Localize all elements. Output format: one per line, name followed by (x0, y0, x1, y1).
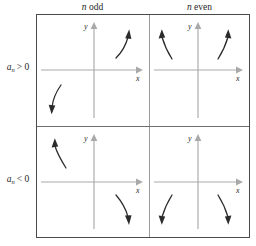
x-axis-label: x (235, 186, 240, 195)
x-axis-label: x (235, 74, 240, 83)
arrow-curve-quadrant-iv (218, 195, 228, 217)
arrow-curve-quadrant-ii (162, 37, 172, 59)
cell-odd-negative: x y (37, 127, 149, 237)
y-axis-arrowhead (91, 134, 98, 141)
row-header-negative-subscript: n (12, 178, 15, 185)
x-axis-arrowhead (236, 179, 243, 186)
column-header-n-even-label: even (192, 2, 212, 12)
figure-grid: x y x y (36, 14, 250, 238)
arrow-curve-quadrant-iii (52, 85, 61, 107)
y-axis-label: y (187, 134, 192, 143)
arrow-curve-quadrant-ii (55, 146, 66, 168)
arrow-curve-quadrant-iv (116, 195, 128, 217)
row-header-negative-relation: < 0 (17, 174, 29, 184)
arrow-head-quadrant-iii (159, 216, 166, 225)
end-behavior-figure: n odd n even an > 0 an < 0 x y (0, 0, 256, 246)
row-header-leading-coefficient-negative: an < 0 (0, 174, 36, 185)
x-axis-arrowhead (136, 179, 143, 186)
cell-odd-positive: x y (37, 15, 149, 126)
arrow-head-quadrant-ii (159, 29, 166, 38)
cell-odd-positive-plot: x y (37, 15, 149, 126)
arrow-head-quadrant-iv (225, 216, 232, 225)
x-axis-label: x (135, 74, 140, 83)
y-axis-arrowhead (195, 22, 202, 29)
y-axis-label: y (187, 22, 192, 31)
arrow-head-quadrant-iv (125, 215, 132, 225)
x-axis-arrowhead (236, 67, 243, 74)
column-header-n-odd: n odd (36, 1, 149, 14)
x-axis-arrowhead (136, 67, 143, 74)
arrow-head-quadrant-i (125, 29, 131, 39)
y-axis-label: y (83, 134, 88, 143)
cell-even-negative-plot: x y (150, 127, 249, 237)
cell-even-negative: x y (150, 127, 249, 237)
cell-odd-negative-plot: x y (37, 127, 149, 237)
arrow-head-quadrant-i (225, 29, 232, 38)
row-header-positive-subscript: n (12, 66, 15, 73)
arrow-curve-quadrant-i (116, 37, 128, 58)
column-header-n-even: n even (149, 1, 250, 14)
y-axis-arrowhead (195, 134, 202, 141)
cell-even-positive: x y (150, 15, 249, 126)
row-header-positive-relation: > 0 (17, 62, 29, 72)
arrow-head-quadrant-ii (52, 138, 59, 147)
arrow-curve-quadrant-i (218, 37, 228, 59)
column-header-n-odd-label: odd (87, 2, 104, 12)
row-header-leading-coefficient-positive: an > 0 (0, 62, 36, 73)
arrow-head-quadrant-iii (49, 105, 56, 114)
x-axis-label: x (135, 186, 140, 195)
arrow-curve-quadrant-iii (162, 195, 172, 217)
y-axis-label: y (83, 22, 88, 31)
y-axis-arrowhead (91, 22, 98, 29)
cell-even-positive-plot: x y (150, 15, 249, 126)
